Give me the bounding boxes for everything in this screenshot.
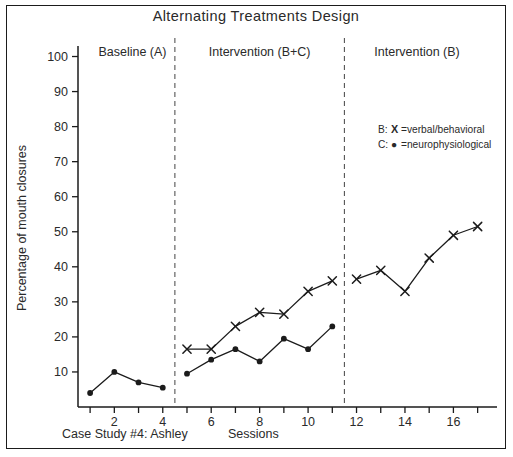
marker-dot-icon [184,371,190,377]
phase-labels: Baseline (A)Intervention (B+C)Interventi… [98,45,459,59]
x-axis-tick-label: 14 [398,415,412,429]
x-axis-tick-label: 16 [446,415,460,429]
legend-series-label: =neurophysiological [401,139,491,150]
legend-marker-dot-icon: ● [391,139,397,150]
phase-label: Intervention (B) [374,45,459,59]
legend-series-prefix: B: [378,124,388,135]
legend-marker-x-icon: X [391,123,399,135]
marker-dot-icon [329,323,335,329]
x-axis-tick-label: 12 [350,415,364,429]
x-axis-tick-label: 10 [301,415,315,429]
chart-canvas: Alternating Treatments Design Percentage… [0,0,513,457]
y-axis-tick-label: 90 [54,85,68,99]
chart-legend: B:X=verbal/behavioralC:●=neurophysiologi… [378,123,491,150]
y-axis-tick-label: 70 [54,155,68,169]
data-series [87,222,482,395]
page-title: Alternating Treatments Design [153,8,360,24]
y-axis-tick-label: 80 [54,120,68,134]
series-path [357,227,478,292]
phase-label: Intervention (B+C) [209,45,311,59]
chart-title-group: Alternating Treatments Design [153,8,360,24]
y-axis-tick-label: 50 [54,225,68,239]
y-axis-tick-label: 100 [47,50,68,64]
phase-label: Baseline (A) [98,45,166,59]
footer-group: Case Study #4: Ashley Sessions [62,427,279,441]
marker-dot-icon [111,369,117,375]
y-axis-tick-label: 10 [54,365,68,379]
x-axis: 246810121416 [78,407,497,429]
marker-dot-icon [87,390,93,396]
x-axis-tick-label: 6 [208,415,215,429]
y-axis-tick-label: 20 [54,330,68,344]
x-axis-title: Sessions [228,427,279,441]
marker-dot-icon [305,346,311,352]
y-axis-tick-label: 60 [54,190,68,204]
marker-dot-icon [233,346,239,352]
marker-dot-icon [136,380,142,386]
series-path [187,281,332,349]
marker-dot-icon [281,336,287,342]
series-path [90,372,163,393]
y-axis-tick-label: 40 [54,260,68,274]
marker-dot-icon [160,385,166,391]
legend-series-label: =verbal/behavioral [401,124,485,135]
y-axis: 102030405060708090100 [47,46,78,407]
chart-screenshot: Alternating Treatments Design Percentage… [0,0,513,457]
marker-dot-icon [257,359,263,365]
phase-dividers [175,38,345,407]
marker-dot-icon [208,357,214,363]
legend-series-prefix: C: [378,139,388,150]
case-study-caption: Case Study #4: Ashley [62,427,189,441]
y-axis-title: Percentage of mouth closures [15,145,29,311]
y-axis-tick-label: 30 [54,295,68,309]
y-axis-title-group: Percentage of mouth closures [15,145,29,311]
